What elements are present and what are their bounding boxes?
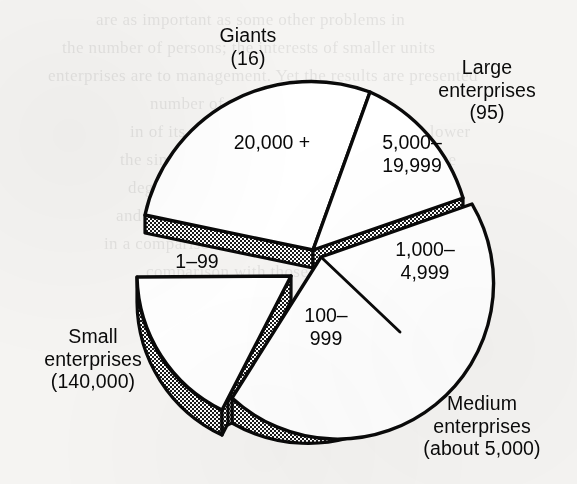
callout-medium-line2: enterprises — [392, 415, 572, 438]
callout-small-line1: Small — [68, 325, 117, 347]
callout-large-line1: Large — [462, 56, 512, 78]
slice-label-1-99: 1–99 — [156, 250, 238, 273]
slice-label-1000-line2: 4,999 — [401, 261, 450, 283]
callout-giants: Giants (16) — [178, 24, 318, 69]
slice-label-5000-line2: 19,999 — [382, 154, 442, 176]
callout-medium-line3: (about 5,000) — [392, 437, 572, 460]
slice-label-5000-19999: 5,000– 19,999 — [360, 131, 464, 177]
callout-giants-line1: Giants — [220, 24, 277, 46]
slice-label-1000-line1: 1,000– — [395, 238, 455, 260]
callout-large-line3: (95) — [412, 101, 562, 124]
callout-giants-line2: (16) — [178, 47, 318, 70]
slice-label-100-999: 100– 999 — [286, 304, 366, 350]
callout-small-line3: (140,000) — [8, 370, 178, 393]
slice-label-100-line2: 999 — [310, 327, 343, 349]
callout-large-enterprises: Large enterprises (95) — [412, 56, 562, 124]
slice-side-face-medium — [228, 398, 232, 425]
callout-medium-line1: Medium — [447, 392, 517, 414]
callout-small-line2: enterprises — [8, 348, 178, 371]
slice-label-1000-4999: 1,000– 4,999 — [376, 238, 474, 284]
slice-label-100-line1: 100– — [304, 304, 347, 326]
slice-label-20000: 20,000 + — [208, 131, 336, 154]
figure-canvas: are as important as some other problems … — [0, 0, 577, 484]
callout-small-enterprises: Small enterprises (140,000) — [8, 325, 178, 393]
callout-medium-enterprises: Medium enterprises (about 5,000) — [392, 392, 572, 460]
slice-label-5000-line1: 5,000– — [382, 131, 442, 153]
callout-large-line2: enterprises — [412, 79, 562, 102]
